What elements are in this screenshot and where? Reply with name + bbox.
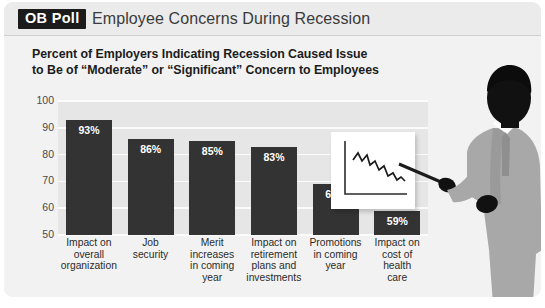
bar-value-label: 85% bbox=[189, 146, 235, 157]
category-label: Meritincreasesin comingyear bbox=[181, 237, 243, 283]
category-label: Impact onretirementplans andinvestments bbox=[243, 237, 305, 283]
bar-slot: 83% bbox=[243, 101, 305, 235]
ob-poll-logo: OB Poll bbox=[18, 9, 86, 29]
y-axis-tick-label: 80 bbox=[28, 149, 54, 160]
y-axis-tick-label: 90 bbox=[28, 122, 54, 133]
header-bar: OB Poll Employee Concerns During Recessi… bbox=[4, 2, 541, 36]
x-axis-categories: Impact onoverallorganizationJobsecurityM… bbox=[58, 237, 428, 295]
category-label-line: organization bbox=[58, 260, 120, 272]
category-label: Impact onoverallorganization bbox=[58, 237, 120, 272]
poll-infographic: OB Poll Employee Concerns During Recessi… bbox=[0, 0, 545, 308]
bar-slot: 93% bbox=[58, 101, 120, 235]
businessman-silhouette-icon bbox=[397, 54, 541, 297]
chart-title: Percent of Employers Indicating Recessio… bbox=[32, 47, 432, 78]
category-label-line: year bbox=[181, 272, 243, 284]
pointer-stick bbox=[399, 164, 441, 182]
bar: 93% bbox=[66, 120, 112, 235]
chart-title-line-1: Percent of Employers Indicating Recessio… bbox=[32, 47, 432, 63]
category-label-line: increases bbox=[181, 249, 243, 261]
y-axis-tick-label: 50 bbox=[28, 229, 54, 240]
y-axis-tick-label: 60 bbox=[28, 202, 54, 213]
chart-title-line-2: to Be of “Moderate” or “Significant” Con… bbox=[32, 63, 432, 79]
category-label-line: plans and bbox=[243, 260, 305, 272]
bar: 83% bbox=[251, 147, 297, 235]
category-label-line: Impact on bbox=[243, 237, 305, 249]
category-label-line: overall bbox=[58, 249, 120, 261]
category-label-line: security bbox=[120, 249, 182, 261]
chart-body: Percent of Employers Indicating Recessio… bbox=[4, 36, 541, 297]
header-title: Employee Concerns During Recession bbox=[92, 8, 370, 29]
bar-slot: 86% bbox=[120, 101, 182, 235]
category-label-line: in coming bbox=[181, 260, 243, 272]
bar-value-label: 93% bbox=[66, 125, 112, 136]
category-label-line: Promotions bbox=[305, 237, 367, 249]
category-label-line: retirement bbox=[243, 249, 305, 261]
businessman-illustration bbox=[397, 54, 541, 297]
bar-slot: 85% bbox=[181, 101, 243, 235]
y-axis: 5060708090100 bbox=[26, 101, 54, 235]
neck bbox=[501, 116, 519, 128]
y-axis-tick-label: 70 bbox=[28, 175, 54, 186]
category-label-line: Job bbox=[120, 237, 182, 249]
infographic-card: OB Poll Employee Concerns During Recessi… bbox=[4, 2, 541, 297]
category-label-line: Merit bbox=[181, 237, 243, 249]
category-label-line: Impact on bbox=[58, 237, 120, 249]
category-label-line: year bbox=[305, 260, 367, 272]
bar-value-label: 86% bbox=[128, 144, 174, 155]
bar: 86% bbox=[128, 139, 174, 235]
bar-value-label: 83% bbox=[251, 152, 297, 163]
category-label: Promotionsin comingyear bbox=[305, 237, 367, 272]
y-axis-tick-label: 100 bbox=[28, 95, 54, 106]
category-label-line: in coming bbox=[305, 249, 367, 261]
category-label-line: investments bbox=[243, 272, 305, 284]
bar: 85% bbox=[189, 141, 235, 235]
necktie bbox=[502, 132, 510, 176]
category-label: Jobsecurity bbox=[120, 237, 182, 260]
